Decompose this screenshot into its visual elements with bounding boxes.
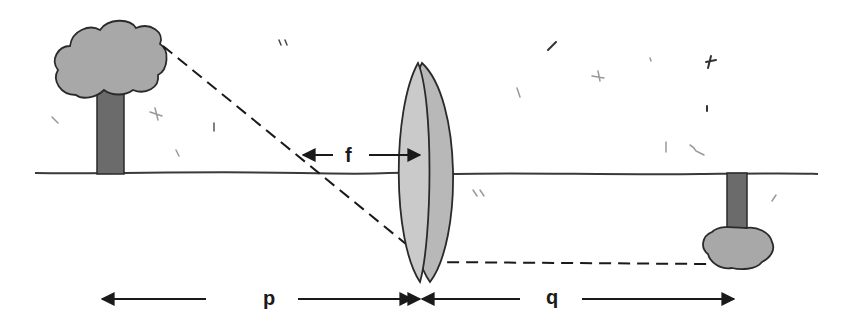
object-tree-trunk <box>97 82 124 174</box>
object-tree <box>55 21 167 174</box>
object-tree-canopy <box>55 21 167 98</box>
image-distance-indicator: q q <box>338 286 734 308</box>
converging-lens <box>399 63 453 282</box>
lens-front-face <box>399 63 430 282</box>
object-distance-label: p <box>263 287 275 309</box>
image-tree <box>703 173 773 269</box>
focal-length-label: f <box>345 144 352 166</box>
image-distance-text: q <box>546 286 558 308</box>
image-tree-canopy <box>703 227 773 269</box>
lens-diagram: f p q q <box>0 0 852 333</box>
image-tree-trunk <box>727 173 747 233</box>
